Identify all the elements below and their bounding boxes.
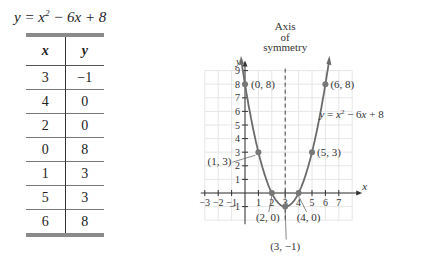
y-tick-label: −1: [229, 201, 240, 212]
data-point: [269, 190, 275, 196]
point-label: (4, 0): [297, 211, 321, 224]
y-tick-label: 3: [235, 147, 240, 158]
point-label: (2, 0): [256, 211, 280, 224]
x-tick-label: 1: [256, 197, 261, 208]
x-axis-label: x: [361, 180, 367, 192]
point-label: (3, −1): [270, 240, 300, 253]
x-tick-label: −2: [213, 197, 224, 208]
y-tick-label: 1: [235, 174, 240, 185]
x-tick-label: 4: [296, 197, 301, 208]
point-label: (5, 3): [317, 146, 341, 159]
x-tick-label: 5: [310, 197, 315, 208]
curve-arrow-icon: [326, 56, 331, 66]
data-point: [255, 149, 261, 155]
x-tick-label: 7: [336, 197, 341, 208]
x-tick-label: −3: [199, 197, 210, 208]
x-tick-label: 6: [323, 197, 328, 208]
y-tick-label: 6: [235, 106, 240, 117]
point-label: (1, 3): [208, 155, 232, 168]
axis-of-symmetry-label: symmetry: [263, 41, 307, 53]
parabola-graph: xy−3−2−11234567−1123456789Axisofsymmetry…: [0, 0, 424, 258]
point-label: (0, 8): [251, 78, 275, 91]
y-tick-label: 4: [235, 133, 240, 144]
y-tick-label: 5: [235, 120, 240, 131]
data-point: [309, 149, 315, 155]
data-point: [242, 81, 248, 87]
curve-equation-label: y = x2 − 6x + 8: [318, 108, 384, 120]
y-tick-label: 2: [235, 160, 240, 171]
point-label: (6, 8): [330, 78, 354, 91]
y-tick-label: 9: [235, 65, 240, 76]
y-tick-label: 8: [235, 79, 240, 90]
data-point: [282, 204, 288, 210]
data-point: [322, 81, 328, 87]
y-tick-label: 7: [235, 92, 240, 103]
data-point: [296, 190, 302, 196]
